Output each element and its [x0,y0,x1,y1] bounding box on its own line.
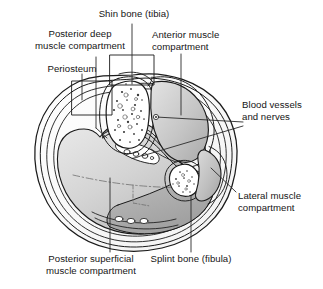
anatomy-figure: Shin bone (tibia) Posterior deep muscle … [0,0,323,289]
label-shin-bone: Shin bone (tibia) [79,8,189,20]
label-blood-vessels-and-nerves: Blood vessels and nerves [242,99,322,122]
label-anterior-compartment: Anterior muscle compartment [152,29,258,52]
label-lateral-compartment: Lateral muscle compartment [238,190,322,213]
label-splint-bone: Splint bone (fibula) [135,253,247,265]
label-posterior-deep-compartment: Posterior deep muscle compartment [16,28,144,51]
label-periosteum: Periosteum [26,63,118,75]
neurovascular-markers [153,114,158,119]
